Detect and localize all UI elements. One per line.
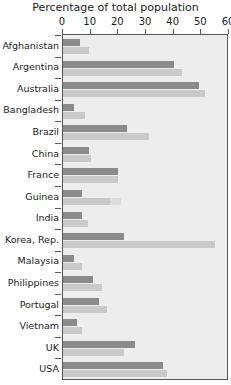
x-tick-label-60: 60: [222, 16, 231, 27]
y-tick-mark-6: [55, 164, 61, 165]
x-axis-line: [62, 34, 228, 35]
bar-light-15: [63, 370, 167, 377]
y-tick-mark-0: [55, 35, 61, 36]
y-axis-label-brazil: Brazil: [2, 126, 62, 137]
y-tick-mark-13: [55, 315, 61, 316]
y-tick-mark-3: [55, 100, 61, 101]
y-axis-label-argentina: Argentina: [2, 61, 62, 72]
y-tick-mark-12: [55, 294, 61, 295]
x-tick-mark-0: [62, 29, 63, 34]
x-tick-mark-20: [117, 29, 118, 34]
x-tick-label-30: 30: [139, 16, 152, 27]
y-axis-label-france: France: [2, 169, 62, 180]
y-axis-label-india: India: [2, 212, 62, 223]
bar-dark-7: [63, 190, 82, 197]
y-tick-mark-10: [55, 251, 61, 252]
y-tick-mark-8: [55, 208, 61, 209]
bar-dark-5: [63, 147, 89, 154]
y-axis-label-vietnam: Vietnam: [2, 320, 62, 331]
y-axis-label-uk: UK: [2, 342, 62, 353]
bar-light-0: [63, 47, 89, 54]
bar-light-7: [63, 198, 110, 205]
bar-light-6: [63, 176, 118, 183]
y-tick-mark-11: [55, 272, 61, 273]
x-tick-label-40: 40: [166, 16, 179, 27]
x-tick-label-0: 0: [59, 16, 65, 27]
y-axis-label-bangladesh: Bangladesh: [2, 104, 62, 115]
bar-light-4: [63, 133, 149, 140]
chart-title: Percentage of total population: [0, 1, 231, 14]
y-tick-mark-7: [55, 186, 61, 187]
bar-light-1: [63, 69, 182, 76]
bar-dark-10: [63, 255, 74, 262]
chart-root: Percentage of total population 010203040…: [0, 0, 231, 385]
plot-area: [62, 35, 228, 380]
y-tick-mark-4: [55, 121, 61, 122]
x-axis-tick-labels: 0102030405060: [0, 16, 231, 29]
x-tick-label-50: 50: [194, 16, 207, 27]
bar-dark-2: [63, 82, 199, 89]
bar-light-11: [63, 284, 102, 291]
bar-dark-11: [63, 276, 93, 283]
y-tick-mark-2: [55, 78, 61, 79]
bar-light-10: [63, 263, 82, 270]
y-tick-mark-5: [55, 143, 61, 144]
y-tick-mark-1: [55, 57, 61, 58]
bar-light-5: [63, 155, 91, 162]
bar-dark-6: [63, 168, 118, 175]
bar-dark-3: [63, 104, 74, 111]
y-tick-mark-14: [55, 337, 61, 338]
y-axis-label-guinea: Guinea: [2, 191, 62, 202]
x-tick-mark-60: [228, 29, 229, 34]
y-axis-category-labels: AfghanistanArgentinaAustraliaBangladeshB…: [0, 35, 62, 380]
bar-light-2: [63, 90, 205, 97]
bar-light-12: [63, 306, 107, 313]
y-axis-label-australia: Australia: [2, 83, 62, 94]
bar-light-13: [63, 327, 82, 334]
x-tick-mark-30: [145, 29, 146, 34]
y-axis-label-usa: USA: [2, 363, 62, 374]
y-axis-label-afghanistan: Afghanistan: [2, 40, 62, 51]
y-tick-mark-15: [55, 358, 61, 359]
bar-dark-14: [63, 341, 135, 348]
x-tick-mark-50: [200, 29, 201, 34]
x-tick-label-10: 10: [83, 16, 96, 27]
bar-light-9: [63, 241, 215, 248]
y-axis-label-portugal: Portugal: [2, 299, 62, 310]
bar-dark-13: [63, 319, 77, 326]
x-tick-mark-40: [173, 29, 174, 34]
y-axis-label-philippines: Philippines: [2, 277, 62, 288]
bar-light-8: [63, 220, 88, 227]
y-axis-label-china: China: [2, 148, 62, 159]
x-tick-mark-10: [90, 29, 91, 34]
y-tick-mark-9: [55, 229, 61, 230]
x-tick-label-20: 20: [111, 16, 124, 27]
bar-light-14: [63, 349, 124, 356]
bar-dark-12: [63, 298, 99, 305]
bar-light-3: [63, 112, 85, 119]
bar-dark-0: [63, 39, 80, 46]
bar-dark-8: [63, 212, 82, 219]
bar-dark-15: [63, 362, 163, 369]
bar-dark-9: [63, 233, 124, 240]
bar-dark-1: [63, 61, 174, 68]
y-axis-label-korea-rep: Korea, Rep.: [2, 234, 62, 245]
bar-dark-4: [63, 125, 127, 132]
y-axis-label-malaysia: Malaysia: [2, 255, 62, 266]
